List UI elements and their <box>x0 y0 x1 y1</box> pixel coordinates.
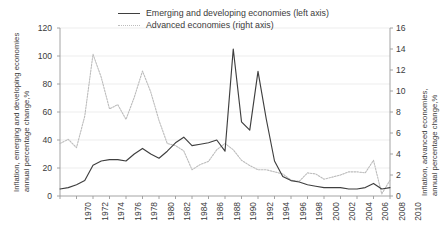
x-axis-tick-label: 2004 <box>363 202 373 221</box>
right-axis-tick-label: 0 <box>396 191 420 201</box>
x-axis-tick-label: 1976 <box>132 202 142 221</box>
x-axis-tick-label: 1972 <box>99 202 109 221</box>
left-axis-tick-label: 80 <box>28 79 52 89</box>
legend-label-emerging: Emerging and developing economies (left … <box>146 8 329 18</box>
left-axis-tick-label: 20 <box>28 163 52 173</box>
x-axis-tick-label: 1970 <box>83 202 93 221</box>
x-axis-tick-label: 1980 <box>165 202 175 221</box>
x-axis-tick-label: 1990 <box>248 202 258 221</box>
right-axis-tick-label: 6 <box>396 128 420 138</box>
legend-key-emerging <box>118 13 140 14</box>
x-axis-tick-label: 2000 <box>330 202 340 221</box>
right-axis-tick-label: 12 <box>396 65 420 75</box>
legend-key-advanced <box>118 25 140 26</box>
left-axis-tick-label: 100 <box>28 51 52 61</box>
x-axis-tick-label: 1974 <box>116 202 126 221</box>
series-line <box>60 54 390 194</box>
x-axis-tick-label: 1996 <box>297 202 307 221</box>
x-axis-tick-label: 1988 <box>231 202 241 221</box>
left-axis-tick-label: 120 <box>28 23 52 33</box>
x-axis-tick-label: 1978 <box>149 202 159 221</box>
x-axis-tick-label: 1984 <box>198 202 208 221</box>
right-axis-tick-label: 14 <box>396 44 420 54</box>
left-axis-tick-label: 0 <box>28 191 52 201</box>
x-axis-tick-label: 2010 <box>413 202 423 221</box>
x-axis-tick-label: 1982 <box>182 202 192 221</box>
left-axis-tick-label: 40 <box>28 135 52 145</box>
x-axis-tick-label: 1986 <box>215 202 225 221</box>
right-axis-tick-label: 2 <box>396 170 420 180</box>
x-axis-tick-label: 1992 <box>264 202 274 221</box>
x-axis-tick-label: 2002 <box>347 202 357 221</box>
x-axis-tick-label: 1994 <box>281 202 291 221</box>
left-axis-tick-label: 60 <box>28 107 52 117</box>
right-axis-tick-label: 8 <box>396 107 420 117</box>
right-axis-tick-label: 4 <box>396 149 420 159</box>
chart-container: Inflation, emerging and developing econo… <box>0 0 445 246</box>
legend-label-advanced: Advanced economies (right axis) <box>146 20 274 30</box>
x-axis-tick-label: 2006 <box>380 202 390 221</box>
right-axis-tick-label: 16 <box>396 23 420 33</box>
x-axis-tick-label: 1998 <box>314 202 324 221</box>
right-axis-tick-label: 10 <box>396 86 420 96</box>
x-axis-tick-label: 2008 <box>396 202 406 221</box>
